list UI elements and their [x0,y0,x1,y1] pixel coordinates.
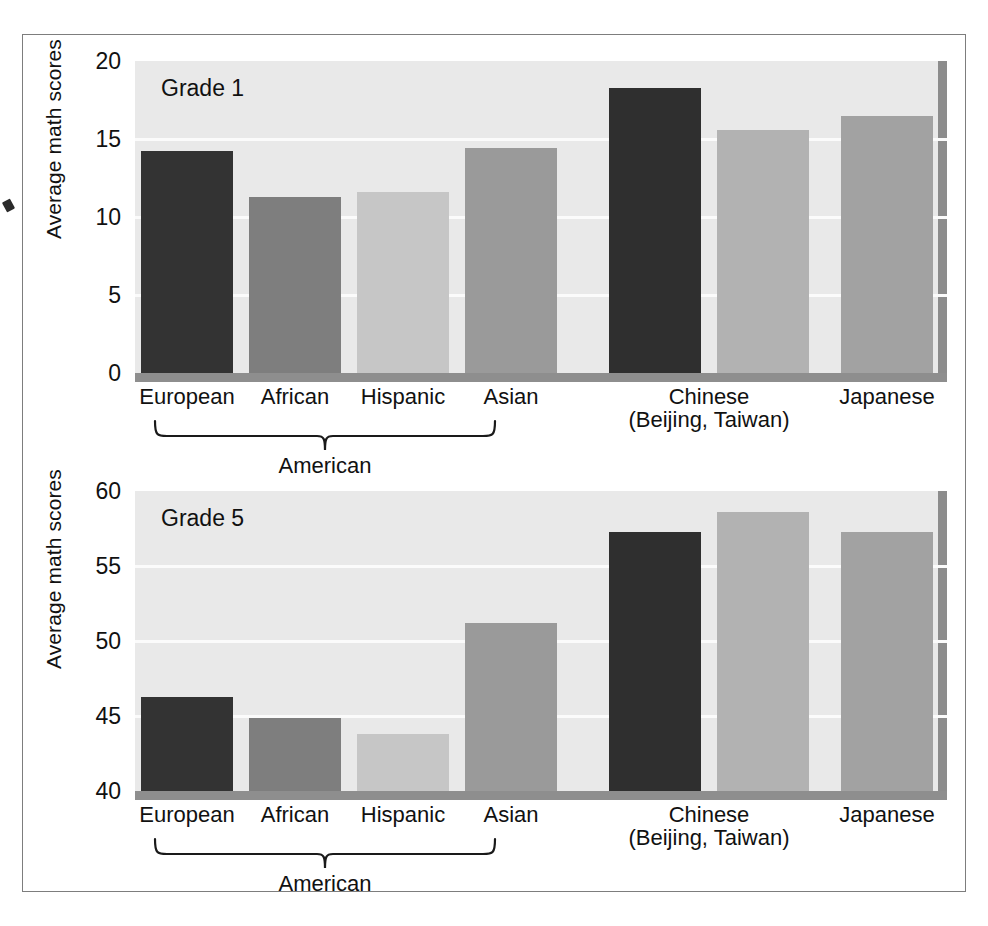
bar [465,623,557,791]
category-label: Chinese(Beijing, Taiwan) [628,385,789,431]
category-label: Japanese [839,803,934,826]
category-label: Asian [483,803,538,826]
category-label-text: Japanese [839,384,934,409]
category-label: Hispanic [361,385,445,408]
y-tick-label: 45 [95,705,121,728]
category-label-text: Chinese [669,802,750,827]
category-label-text: Hispanic [361,384,445,409]
y-tick-label: 15 [95,128,121,151]
category-label: Chinese(Beijing, Taiwan) [628,803,789,849]
bar [249,197,341,373]
category-label-text: African [261,802,329,827]
category-label: Hispanic [361,803,445,826]
category-label-subtext: (Beijing, Taiwan) [628,408,789,431]
y-axis-title-grade5: Average math scores [42,454,66,684]
bar [141,151,233,373]
chart-panel-grade5: Average math scores 4045505560 Grade 5 E… [23,465,967,893]
category-label: European [139,803,234,826]
y-tick-label: 0 [108,362,121,385]
category-labels-grade1: EuropeanAfricanHispanicAsianChinese(Beij… [135,385,947,415]
y-tick-label: 50 [95,630,121,653]
category-label-text: Hispanic [361,802,445,827]
baseline-grade1 [135,373,947,382]
american-group-label-grade5: American [279,871,372,897]
bar [465,148,557,373]
panel-caption-grade1: Grade 1 [161,75,244,102]
scan-speck [2,199,15,213]
y-tick-label: 55 [95,555,121,578]
bar [609,532,701,792]
plot-area-grade5: Grade 5 [135,491,947,791]
category-label: Asian [483,385,538,408]
category-label: Japanese [839,385,934,408]
category-label-text: Japanese [839,802,934,827]
bar [609,88,701,373]
bar [357,734,449,791]
category-label-text: European [139,384,234,409]
category-label-text: African [261,384,329,409]
category-labels-grade5: EuropeanAfricanHispanicAsianChinese(Beij… [135,803,947,833]
category-label: African [261,803,329,826]
y-tick-label: 10 [95,206,121,229]
bar [357,192,449,373]
category-label-text: Asian [483,384,538,409]
y-tick-label: 20 [95,50,121,73]
y-axis-ticks-grade5: 4045505560 [75,465,121,893]
plot-area-grade1: Grade 1 [135,61,947,373]
category-label-text: Chinese [669,384,750,409]
gridline [135,565,947,568]
gridline [135,138,947,141]
chart-panel-grade1: Average math scores 05101520 Grade 1 Eur… [23,35,967,465]
category-label: European [139,385,234,408]
baseline-grade5 [135,791,947,800]
figure-frame: Average math scores 05101520 Grade 1 Eur… [22,34,966,892]
y-tick-label: 5 [108,284,121,307]
category-label: African [261,385,329,408]
category-label-text: European [139,802,234,827]
y-axis-ticks-grade1: 05101520 [75,35,121,465]
category-label-subtext: (Beijing, Taiwan) [628,826,789,849]
bar [841,532,933,792]
american-group-brace-grade1 [151,419,499,453]
y-axis-title-grade1: Average math scores [42,24,66,254]
panel-caption-grade5: Grade 5 [161,505,244,532]
bar [717,130,809,373]
y-tick-label: 60 [95,480,121,503]
category-label-text: Asian [483,802,538,827]
american-group-brace-grade5 [151,837,499,871]
bar [249,718,341,792]
bar [841,116,933,373]
bar [717,512,809,791]
bar [141,697,233,792]
y-tick-label: 40 [95,780,121,803]
